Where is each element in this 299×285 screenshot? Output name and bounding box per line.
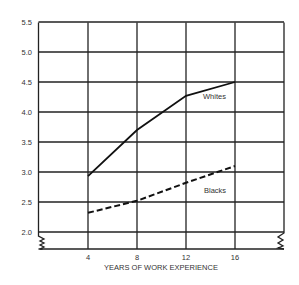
- series-label-whites: Whites: [203, 92, 226, 101]
- y-tick-label: 4.0: [22, 108, 32, 117]
- grid: [39, 22, 285, 249]
- x-tick-label: 12: [182, 253, 190, 262]
- x-tick-label: 16: [231, 253, 239, 262]
- series-label-blacks: Blacks: [204, 186, 226, 195]
- y-tick-label: 3.0: [22, 168, 32, 177]
- y-tick-label: 4.5: [22, 78, 32, 87]
- x-tick-label: 4: [86, 253, 90, 262]
- y-tick-label: 5.5: [22, 18, 32, 27]
- tick-labels: 2.02.53.03.54.04.55.05.5481216: [22, 18, 240, 263]
- x-axis-label: YEARS OF WORK EXPERIENCE: [104, 263, 218, 272]
- y-tick-label: 2.5: [22, 198, 32, 207]
- x-tick-label: 8: [135, 253, 139, 262]
- line-chart: 2.02.53.03.54.04.55.05.5481216 Whites Bl…: [0, 0, 299, 285]
- y-tick-label: 5.0: [22, 48, 32, 57]
- y-tick-label: 3.5: [22, 138, 32, 147]
- y-tick-label: 2.0: [22, 228, 32, 237]
